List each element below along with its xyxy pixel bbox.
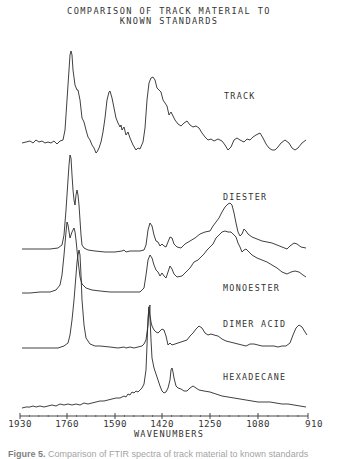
tick-label-1250: 1250 xyxy=(198,418,222,429)
tick-label-1930: 1930 xyxy=(8,418,32,429)
figure-caption: Figure 5. Comparison of FTIR spectra of … xyxy=(8,449,308,459)
tick-label-1080: 1080 xyxy=(246,418,270,429)
caption-prefix: Figure 5. xyxy=(8,449,46,459)
label-dimer-acid: DIMER ACID xyxy=(223,319,286,329)
label-track: TRACK xyxy=(224,91,256,101)
x-axis-label: WAVENUMBERS xyxy=(0,429,338,439)
trace-dimer-acid xyxy=(22,250,307,348)
label-hexadecane: HEXADECANE xyxy=(223,372,286,382)
tick-label-910: 910 xyxy=(305,418,323,429)
caption-text: Comparison of FTIR spectra of track mate… xyxy=(48,449,308,459)
tick-label-1590: 1590 xyxy=(103,418,127,429)
tick-label-1420: 1420 xyxy=(150,418,174,429)
tick-label-1760: 1760 xyxy=(55,418,79,429)
label-diester: DIESTER xyxy=(223,192,267,202)
label-monoester: MONOESTER xyxy=(223,283,280,293)
trace-track xyxy=(22,51,306,153)
trace-diester xyxy=(22,155,306,252)
